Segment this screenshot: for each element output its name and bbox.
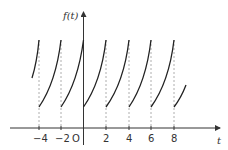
x-tick-label: 4	[126, 133, 132, 144]
function-curve	[32, 40, 186, 107]
x-tick-label: 8	[171, 133, 177, 144]
x-tick-label: 2	[103, 133, 109, 144]
y-axis-label: f(t)	[62, 10, 79, 21]
function-graph: f(t) t O −4 −2 2 4 6 8	[0, 0, 228, 150]
x-tick-label: −4	[33, 133, 48, 144]
x-tick-label: −2	[55, 133, 70, 144]
x-tick-label: 6	[148, 133, 154, 144]
x-axis-label: t	[217, 135, 222, 146]
origin-label: O	[72, 133, 80, 144]
